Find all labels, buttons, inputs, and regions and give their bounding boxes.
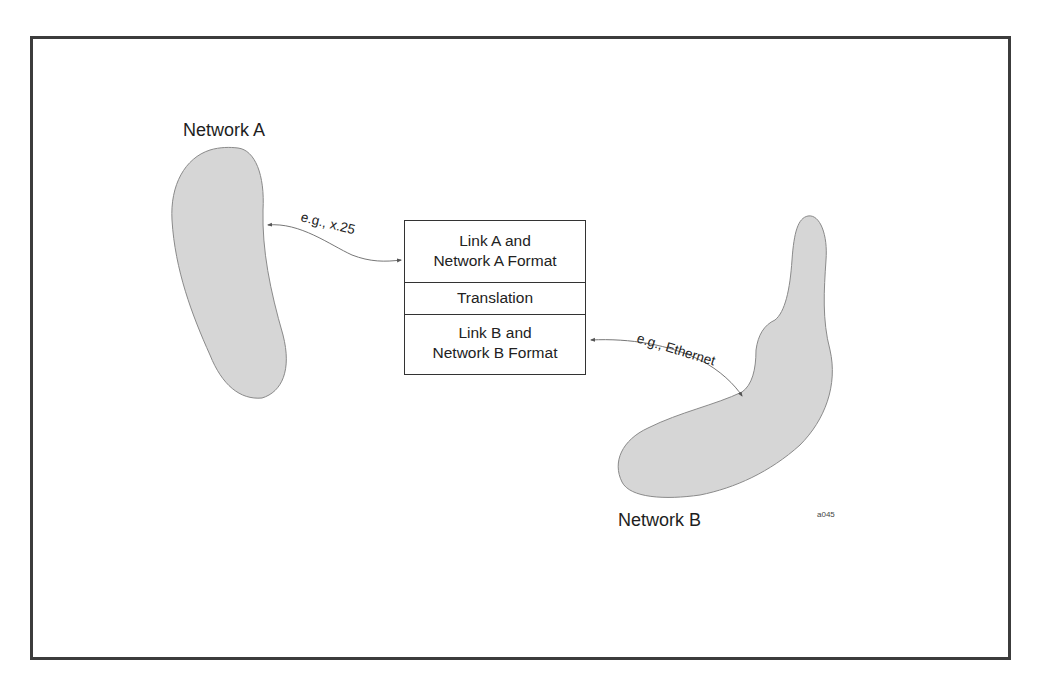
figure-id: a045 [817,510,835,519]
layer-3-line-2: Network B Format [405,343,585,363]
layer-1-line-1: Link A and [405,231,585,251]
layer-link-b-format: Link B and Network B Format [405,315,585,374]
network-a-shape [172,147,287,398]
network-b-shape [618,216,832,498]
gateway-protocol-stack: Link A and Network A Format Translation … [404,220,586,375]
link-a-label: e.g., x.25 [299,209,357,237]
layer-3-line-1: Link B and [405,323,585,343]
layer-2-line-1: Translation [405,288,585,308]
layer-link-a-format: Link A and Network A Format [405,221,585,283]
network-a-label: Network A [183,120,265,141]
layer-1-line-2: Network A Format [405,251,585,271]
link-b-label: e.g., Ethernet [635,331,717,369]
layer-translation: Translation [405,283,585,315]
network-b-label: Network B [618,510,701,531]
